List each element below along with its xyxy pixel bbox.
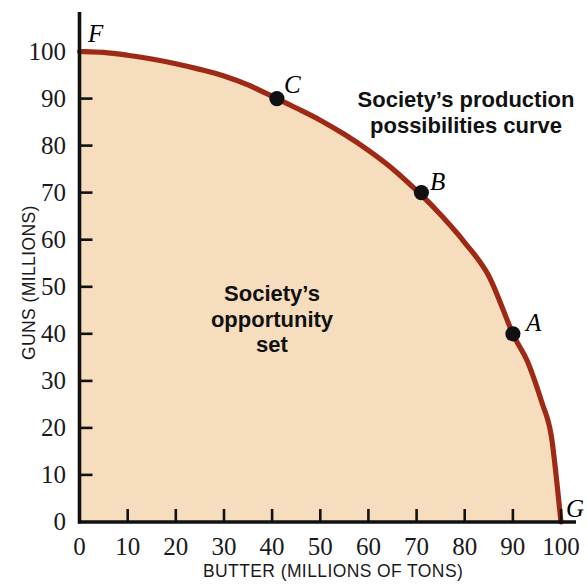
y-tick-label: 10 xyxy=(0,462,66,487)
opportunity-set-line2: opportunity xyxy=(184,307,360,333)
opportunity-set-annotation: Society’s opportunity set xyxy=(184,281,360,358)
point-label-g: G xyxy=(566,496,584,521)
x-tick-label: 100 xyxy=(531,534,588,559)
y-tick-label: 90 xyxy=(0,86,66,111)
point-label-b: B xyxy=(430,169,445,194)
curve-annotation: Society’s production possibilities curve xyxy=(351,87,581,138)
opportunity-set-line1: Society’s xyxy=(184,281,360,307)
y-axis-title: GUNS (MILLIONS) xyxy=(21,205,39,360)
y-tick-label: 100 xyxy=(0,39,66,64)
y-tick-label: 70 xyxy=(0,180,66,205)
data-point-b xyxy=(414,185,429,200)
x-axis-title: BUTTER (MILLIONS OF TONS) xyxy=(203,563,463,581)
y-tick-label: 0 xyxy=(0,509,66,534)
point-label-c: C xyxy=(284,72,301,97)
data-point-c xyxy=(269,91,284,106)
data-point-a xyxy=(505,326,520,341)
point-label-f: F xyxy=(88,21,103,46)
ppf-figure: 0102030405060708090100 01020304050607080… xyxy=(0,0,588,585)
curve-annotation-line1: Society’s production xyxy=(351,87,581,113)
y-tick-label: 20 xyxy=(0,415,66,440)
y-tick-label: 30 xyxy=(0,368,66,393)
opportunity-set-line3: set xyxy=(184,332,360,358)
point-label-a: A xyxy=(526,310,541,335)
y-tick-label: 80 xyxy=(0,133,66,158)
curve-annotation-line2: possibilities curve xyxy=(351,113,581,139)
